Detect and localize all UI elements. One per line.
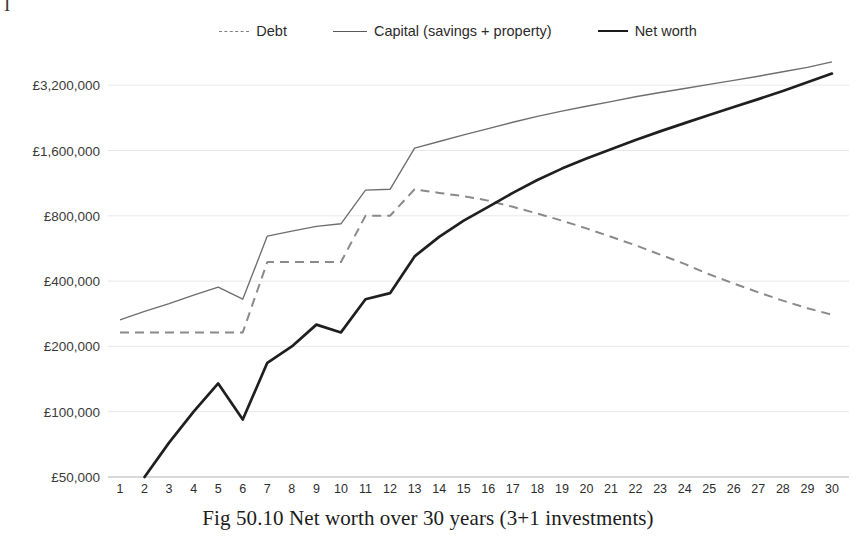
x-axis-tick-label: 20	[579, 482, 593, 496]
x-axis-tick-label: 4	[190, 482, 197, 496]
y-axis-tick-label: £50,000	[51, 470, 100, 485]
x-axis-tick-label: 27	[751, 482, 765, 496]
x-axis-tick-label: 7	[264, 482, 271, 496]
series-line-debt	[120, 189, 832, 332]
x-axis-tick-label: 3	[166, 482, 173, 496]
x-axis-tick-label: 15	[457, 482, 471, 496]
y-axis-tick-label: £400,000	[44, 274, 100, 289]
y-axis-labels-group: £3,200,000£1,600,000£800,000£400,000£200…	[32, 78, 100, 485]
x-axis-tick-label: 18	[530, 482, 544, 496]
x-axis-tick-label: 9	[313, 482, 320, 496]
y-axis-tick-label: £800,000	[44, 209, 100, 224]
x-axis-tick-label: 2	[141, 482, 148, 496]
x-axis-tick-label: 14	[432, 482, 446, 496]
x-axis-tick-label: 22	[629, 482, 643, 496]
x-axis-tick-label: 11	[359, 482, 372, 496]
x-axis-tick-label: 5	[215, 482, 222, 496]
x-axis-tick-label: 30	[825, 482, 839, 496]
x-axis-tick-label: 24	[678, 482, 692, 496]
x-axis-tick-label: 10	[334, 482, 348, 496]
x-axis-tick-label: 6	[239, 482, 246, 496]
y-axis-tick-label: £200,000	[44, 339, 100, 354]
y-axis-tick-label: £100,000	[44, 405, 100, 420]
x-axis-tick-label: 12	[383, 482, 397, 496]
x-axis-tick-label: 13	[408, 482, 422, 496]
line-chart-svg: £3,200,000£1,600,000£800,000£400,000£200…	[0, 0, 856, 548]
gridlines-group	[108, 85, 849, 477]
x-axis-tick-label: 23	[653, 482, 667, 496]
y-axis-tick-label: £3,200,000	[32, 78, 100, 93]
x-axis-tick-label: 26	[727, 482, 741, 496]
x-axis-tick-label: 21	[604, 482, 618, 496]
x-axis-tick-label: 17	[506, 482, 520, 496]
x-axis-tick-label: 8	[288, 482, 295, 496]
x-axis-tick-label: 19	[555, 482, 569, 496]
series-line-net-worth	[145, 74, 832, 477]
x-axis-tick-label: 28	[776, 482, 790, 496]
figure-page: I Debt Capital (savings + property) Net …	[0, 0, 856, 548]
x-axis-tick-label: 1	[117, 482, 124, 496]
y-axis-tick-label: £1,600,000	[32, 144, 100, 159]
x-axis-tick-label: 16	[481, 482, 495, 496]
figure-caption: Fig 50.10 Net worth over 30 years (3+1 i…	[0, 506, 856, 531]
x-axis-labels-group: 1234567891011121314151617181920212223242…	[117, 482, 839, 496]
plot-area: £3,200,000£1,600,000£800,000£400,000£200…	[0, 0, 856, 548]
x-axis-tick-label: 29	[800, 482, 814, 496]
x-axis-tick-label: 25	[702, 482, 716, 496]
